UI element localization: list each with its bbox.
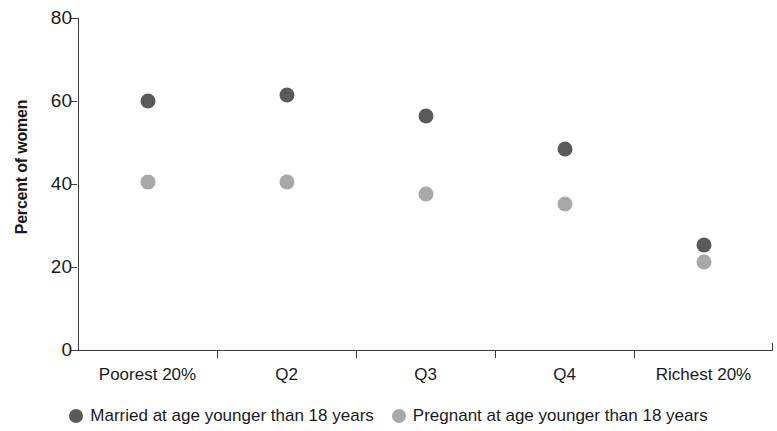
y-axis-top-cap — [71, 18, 78, 19]
x-axis-label: Q3 — [414, 365, 437, 385]
y-tick-label: 0 — [28, 340, 72, 359]
legend-marker-pregnant-icon — [392, 409, 406, 423]
legend-item-pregnant: Pregnant at age younger than 18 years — [392, 406, 708, 425]
x-tick-mark — [217, 350, 218, 358]
x-axis-right-cap — [772, 343, 773, 351]
y-axis-title: Percent of women — [13, 57, 31, 277]
data-point-married-4 — [696, 238, 711, 253]
y-tick-label: 20 — [28, 257, 72, 276]
x-tick-mark — [495, 350, 496, 358]
scatter-chart: Percent of women 020406080 Poorest 20%Q2… — [0, 0, 777, 431]
legend-marker-married-icon — [69, 409, 83, 423]
x-tick-mark — [634, 350, 635, 358]
x-axis-label: Poorest 20% — [99, 365, 196, 385]
data-point-pregnant-4 — [696, 255, 711, 270]
y-tick-mark — [70, 184, 77, 185]
legend-label-pregnant: Pregnant at age younger than 18 years — [413, 406, 708, 425]
chart-legend: Married at age younger than 18 years Pre… — [0, 400, 777, 431]
x-tick-mark — [356, 350, 357, 358]
data-point-pregnant-3 — [557, 197, 572, 212]
x-axis-label: Richest 20% — [656, 365, 751, 385]
data-point-pregnant-2 — [418, 186, 433, 201]
data-point-married-1 — [279, 88, 294, 103]
y-tick-label: 60 — [28, 91, 72, 110]
data-point-married-3 — [557, 142, 572, 157]
data-point-pregnant-0 — [140, 175, 155, 190]
data-point-married-2 — [418, 108, 433, 123]
x-axis-line — [78, 350, 773, 351]
x-axis-left-cap — [71, 350, 79, 351]
x-axis-label: Q2 — [275, 365, 298, 385]
y-tick-mark — [70, 101, 77, 102]
y-tick-label: 80 — [28, 8, 72, 27]
legend-item-married: Married at age younger than 18 years — [69, 406, 374, 425]
y-axis-line — [78, 18, 79, 350]
data-point-married-0 — [140, 94, 155, 109]
y-tick-label: 40 — [28, 174, 72, 193]
x-axis-label: Q4 — [553, 365, 576, 385]
data-point-pregnant-1 — [279, 175, 294, 190]
legend-label-married: Married at age younger than 18 years — [90, 406, 374, 425]
y-tick-mark — [70, 267, 77, 268]
